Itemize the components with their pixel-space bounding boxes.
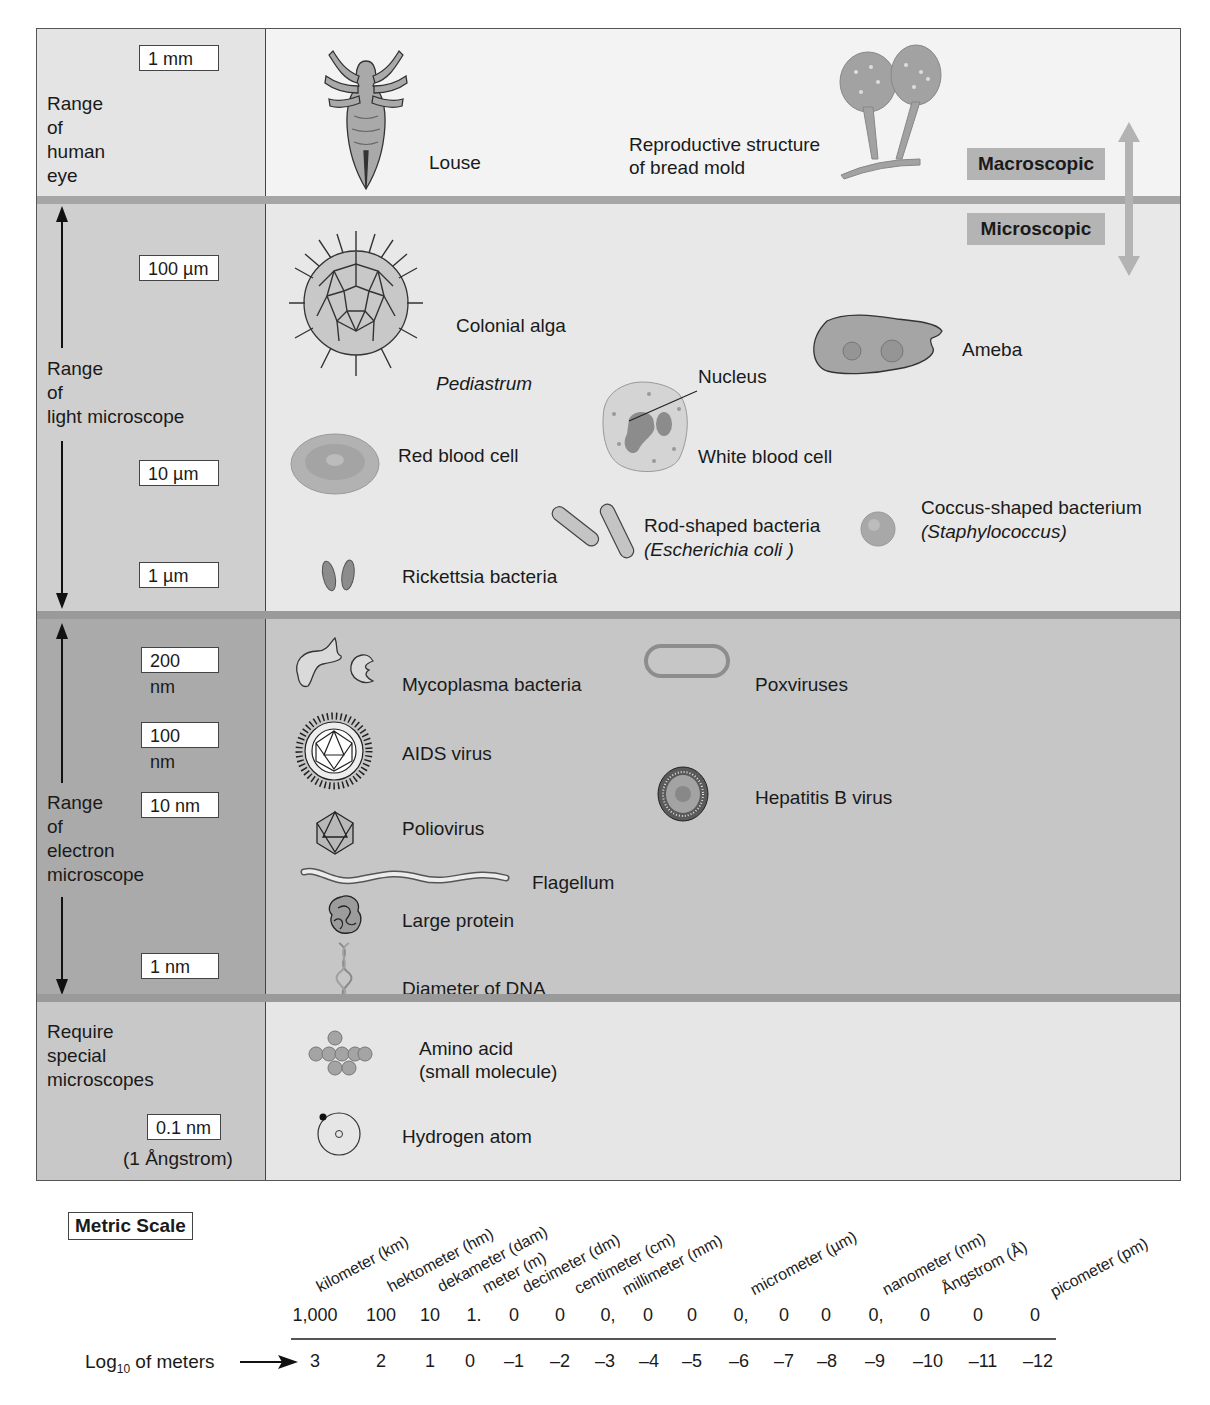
log-value: –3	[595, 1351, 615, 1372]
scale-200nm: 200 nm	[141, 647, 219, 673]
dna-icon	[334, 941, 354, 999]
label-louse: Louse	[429, 151, 481, 174]
digit: 1,000	[292, 1305, 337, 1326]
range-human-eye-label: Range of human eye	[47, 92, 105, 188]
digit: 0	[687, 1305, 697, 1326]
log-value: –1	[504, 1351, 524, 1372]
log-value: –8	[817, 1351, 837, 1372]
log-value: –12	[1023, 1351, 1053, 1372]
rickettsia-icon	[319, 559, 359, 593]
label-poliovirus: Poliovirus	[402, 817, 484, 840]
label-colonial-alga: Colonial alga	[456, 314, 566, 337]
colonial-alga-icon	[289, 226, 424, 381]
band-special-microscopes: Require special microscopes 0.1 nm (1 Ån…	[37, 1002, 1180, 1180]
digit: 0	[643, 1305, 653, 1326]
log-value: –9	[865, 1351, 885, 1372]
flagellum-icon	[301, 866, 511, 890]
band-eye-left: 1 mm Range of human eye	[37, 29, 266, 196]
label-bread-mold: Reproductive structure of bread mold	[629, 133, 820, 179]
band-light-microscope: 100 µm Range of light microscope 10 µm 1…	[37, 204, 1180, 611]
digit: 0,	[733, 1305, 748, 1326]
log-prefix: Log	[85, 1351, 117, 1372]
log-value: 3	[310, 1351, 320, 1372]
microscopic-tag: Microscopic	[967, 213, 1105, 245]
digit: 0	[920, 1305, 930, 1326]
digit: 0	[973, 1305, 983, 1326]
log-value: –7	[774, 1351, 794, 1372]
digit: 0	[509, 1305, 519, 1326]
band-human-eye: 1 mm Range of human eye Louse	[37, 29, 1180, 196]
range-electron-microscope-label: Range of electron microscope	[47, 791, 144, 887]
scale-10um: 10 µm	[139, 460, 219, 486]
unit-micrometer: micrometer (µm)	[748, 1228, 860, 1299]
label-mycoplasma: Mycoplasma bacteria	[402, 673, 582, 696]
digit: 0	[555, 1305, 565, 1326]
coccus-bacterium-icon	[860, 511, 896, 547]
electron-special-divider	[37, 994, 1180, 1002]
digit: 1.	[466, 1305, 481, 1326]
scale-10nm: 10 nm	[141, 792, 219, 818]
label-ameba: Ameba	[962, 338, 1022, 361]
scale-0-1nm: 0.1 nm	[147, 1114, 221, 1140]
macro-micro-divider	[37, 196, 1180, 204]
ameba-icon	[807, 311, 947, 381]
poxvirus-icon	[644, 644, 730, 678]
label-poxviruses: Poxviruses	[755, 673, 848, 696]
light-electron-divider	[37, 611, 1180, 619]
range-up-arrow-icon	[55, 623, 69, 783]
label-hydrogen-atom: Hydrogen atom	[402, 1125, 532, 1148]
band-light-left: 100 µm Range of light microscope 10 µm 1…	[37, 204, 266, 611]
digit: 10	[420, 1305, 440, 1326]
digit: 0	[1030, 1305, 1040, 1326]
label-white-blood-cell: White blood cell	[698, 445, 832, 468]
hydrogen-atom-icon	[316, 1107, 362, 1157]
log-value: –6	[729, 1351, 749, 1372]
band-special-right: Amino acid (small molecule) Hydrogen ato…	[266, 1002, 1180, 1180]
range-up-arrow-icon	[55, 206, 69, 356]
metric-scale-rule	[291, 1338, 1056, 1340]
label-staphylococcus: (Staphylococcus)	[921, 520, 1067, 543]
log-value: –4	[639, 1351, 659, 1372]
band-eye-right: Louse Reproductive structure of bread mo…	[266, 29, 1180, 196]
range-down-arrow-icon	[55, 897, 69, 995]
poliovirus-icon	[315, 811, 355, 855]
band-electron-right: Mycoplasma bacteria Poxviruses AIDS viru…	[266, 619, 1180, 994]
macroscopic-tag: Macroscopic	[967, 148, 1105, 180]
red-blood-cell-icon	[290, 432, 380, 497]
unit-picometer: picometer (pm)	[1048, 1235, 1151, 1301]
label-amino-acid: Amino acid (small molecule)	[419, 1037, 557, 1083]
log-label-text: of meters	[135, 1351, 214, 1372]
label-rod-bacteria: Rod-shaped bacteria	[644, 514, 820, 537]
label-coccus-bacterium: Coccus-shaped bacterium	[921, 496, 1142, 519]
metric-scale-title: Metric Scale	[68, 1212, 193, 1240]
label-1-angstrom: (1 Ångstrom)	[123, 1147, 233, 1170]
label-escherichia-coli: (Escherichia coli )	[644, 538, 794, 561]
label-hepatitis-b: Hepatitis B virus	[755, 786, 892, 809]
log10-meters-label: Log10 of meters	[85, 1351, 215, 1376]
band-electron-microscope: 200 nm 100 nm 10 nm Range of electron mi…	[37, 619, 1180, 994]
log-value: 1	[425, 1351, 435, 1372]
range-special-microscopes-label: Require special microscopes	[47, 1020, 154, 1092]
range-light-microscope-label: Range of light microscope	[47, 357, 184, 429]
label-nucleus: Nucleus	[698, 365, 767, 388]
rod-bacteria-icon	[548, 504, 638, 564]
white-blood-cell-icon	[599, 379, 694, 474]
label-aids-virus: AIDS virus	[402, 742, 492, 765]
log-value: 2	[376, 1351, 386, 1372]
log-subscript: 10	[117, 1362, 130, 1376]
log-value: –11	[969, 1351, 998, 1372]
label-red-blood-cell: Red blood cell	[398, 444, 518, 467]
band-light-right: Microscopic Colonial alga Pediastrum Ame…	[266, 204, 1180, 611]
label-flagellum: Flagellum	[532, 871, 614, 894]
scale-1um: 1 µm	[139, 562, 219, 588]
bread-mold-icon	[836, 47, 946, 172]
band-special-left: Require special microscopes 0.1 nm (1 Ån…	[37, 1002, 266, 1180]
label-rickettsia: Rickettsia bacteria	[402, 565, 557, 588]
range-down-arrow-icon	[55, 441, 69, 609]
scale-1mm: 1 mm	[139, 45, 219, 71]
macro-micro-double-arrow-icon	[1117, 122, 1141, 276]
mycoplasma-icon	[293, 636, 378, 691]
digit: 0,	[868, 1305, 883, 1326]
label-pediastrum: Pediastrum	[436, 372, 532, 395]
log-value: –5	[682, 1351, 702, 1372]
